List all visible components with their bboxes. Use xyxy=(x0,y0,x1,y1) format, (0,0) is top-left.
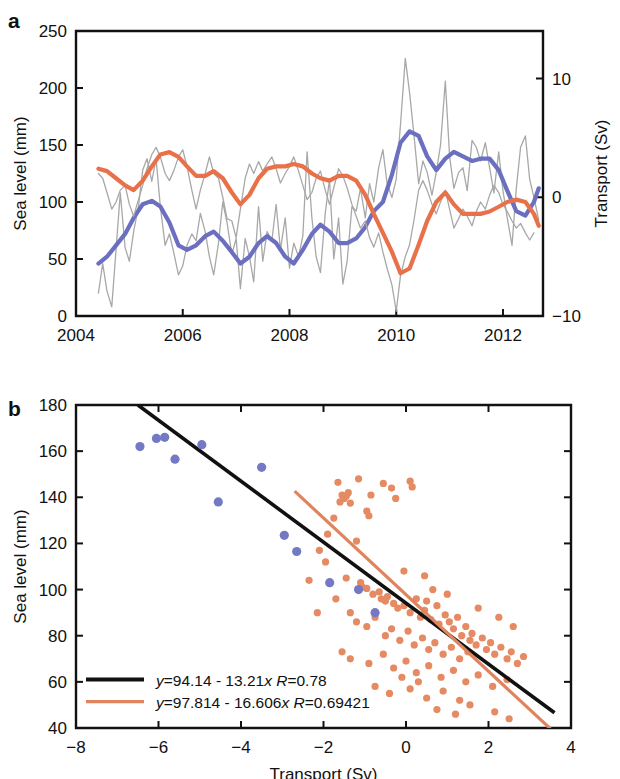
scatter-point-blue xyxy=(354,585,363,594)
scatter-point-orange xyxy=(425,646,432,653)
scatter-point-orange xyxy=(400,568,407,575)
scatter-point-blue xyxy=(257,463,266,472)
panel-b-xtick-label: −2 xyxy=(314,738,333,757)
regression-line xyxy=(138,405,555,713)
scatter-point-orange xyxy=(431,639,438,646)
scatter-point-orange xyxy=(510,623,517,630)
scatter-point-orange xyxy=(384,593,391,600)
panel-b-xtick-label: 4 xyxy=(566,738,575,757)
scatter-point-orange xyxy=(365,512,372,519)
scatter-point-orange xyxy=(473,641,480,648)
scatter-point-orange xyxy=(404,628,411,635)
scatter-point-orange xyxy=(491,708,498,715)
panel-a-ytick-label: 250 xyxy=(39,22,67,41)
scatter-point-orange xyxy=(376,588,383,595)
scatter-point-orange xyxy=(413,669,420,676)
panel-a-ytick-label: 150 xyxy=(39,136,67,155)
scatter-point-orange xyxy=(371,683,378,690)
panel-a-xtick-label: 2008 xyxy=(271,326,309,345)
scatter-point-blue xyxy=(214,497,223,506)
scatter-point-blue xyxy=(325,578,334,587)
scatter-point-orange xyxy=(450,667,457,674)
scatter-point-orange xyxy=(347,609,354,616)
scatter-point-orange xyxy=(456,655,463,662)
scatter-point-orange xyxy=(437,674,444,681)
scatter-point-blue xyxy=(197,440,206,449)
panel-a-xtick-label: 2006 xyxy=(164,326,202,345)
scatter-point-orange xyxy=(421,572,428,579)
scatter-point-orange xyxy=(365,660,372,667)
scatter-point-orange xyxy=(343,574,350,581)
scatter-point-orange xyxy=(392,495,399,502)
scatter-point-orange xyxy=(444,591,451,598)
panel-a-ytick-label: 0 xyxy=(58,307,67,326)
scatter-point-blue xyxy=(292,547,301,556)
scatter-point-orange xyxy=(338,648,345,655)
panel-b-ytick-label: 40 xyxy=(48,719,67,738)
scatter-point-orange xyxy=(419,634,426,641)
panel-b-ytick-label: 120 xyxy=(39,534,67,553)
panel-a-ytick-label: 50 xyxy=(48,250,67,269)
scatter-point-blue xyxy=(160,433,169,442)
scatter-point-orange xyxy=(409,483,416,490)
scatter-point-orange xyxy=(489,683,496,690)
scatter-point-orange xyxy=(394,604,401,611)
panel-b-xtick-label: −6 xyxy=(149,738,168,757)
scatter-point-orange xyxy=(398,674,405,681)
scatter-point-orange xyxy=(514,660,521,667)
panel-a-ytick-label: 100 xyxy=(39,193,67,212)
scatter-point-orange xyxy=(429,586,436,593)
scatter-point-orange xyxy=(316,547,323,554)
scatter-point-orange xyxy=(462,678,469,685)
panel-a-xtick-label: 2012 xyxy=(484,326,522,345)
scatter-point-blue xyxy=(135,442,144,451)
scatter-point-orange xyxy=(442,611,449,618)
panel-a-ytick-right-label: −10 xyxy=(552,307,581,326)
scatter-point-orange xyxy=(475,604,482,611)
panel-b-ytick-label: 180 xyxy=(39,396,67,415)
scatter-point-orange xyxy=(466,637,473,644)
scatter-point-orange xyxy=(402,657,409,664)
scatter-point-orange xyxy=(503,655,510,662)
scatter-point-orange xyxy=(415,678,422,685)
scatter-point-orange xyxy=(388,625,395,632)
scatter-point-orange xyxy=(314,609,321,616)
scatter-point-blue xyxy=(170,455,179,464)
panel-a-series xyxy=(98,58,538,307)
scatter-point-orange xyxy=(433,602,440,609)
scatter-point-orange xyxy=(475,671,482,678)
scatter-point-blue xyxy=(370,608,379,617)
scatter-point-orange xyxy=(347,655,354,662)
panel-b: b 406080100120140160180−8−6−4−2024Transp… xyxy=(0,390,620,779)
scatter-point-orange xyxy=(353,618,360,625)
panel-b-ylabel: Sea level (mm) xyxy=(11,509,30,623)
scatter-point-orange xyxy=(425,662,432,669)
panel-a-ytick-label: 200 xyxy=(39,79,67,98)
scatter-point-orange xyxy=(506,715,513,722)
panel-b-plot: 406080100120140160180−8−6−4−2024Transpor… xyxy=(0,390,620,779)
scatter-point-orange xyxy=(355,475,362,482)
scatter-point-orange xyxy=(390,664,397,671)
scatter-point-orange xyxy=(454,614,461,621)
scatter-point-orange xyxy=(305,577,312,584)
scatter-point-orange xyxy=(433,706,440,713)
scatter-point-orange xyxy=(338,491,345,498)
figure-container: a 050100150200250−1001020042006200820102… xyxy=(0,0,620,779)
scatter-point-orange xyxy=(369,591,376,598)
scatter-point-orange xyxy=(353,538,360,545)
scatter-point-orange xyxy=(382,632,389,639)
scatter-point-orange xyxy=(497,644,504,651)
scatter-point-orange xyxy=(448,644,455,651)
scatter-point-orange xyxy=(495,614,502,621)
scatter-point-orange xyxy=(462,623,469,630)
scatter-point-orange xyxy=(336,498,343,505)
scatter-point-orange xyxy=(440,651,447,658)
panel-b-ytick-label: 100 xyxy=(39,581,67,600)
scatter-point-blue xyxy=(280,531,289,540)
scatter-point-orange xyxy=(483,646,490,653)
panel-a-ytick-right-label: 0 xyxy=(552,188,561,207)
panel-b-xlabel: Transport (Sv) xyxy=(269,765,377,779)
scatter-point-orange xyxy=(479,634,486,641)
scatter-point-orange xyxy=(363,585,370,592)
panel-a: a 050100150200250−1001020042006200820102… xyxy=(0,0,620,390)
